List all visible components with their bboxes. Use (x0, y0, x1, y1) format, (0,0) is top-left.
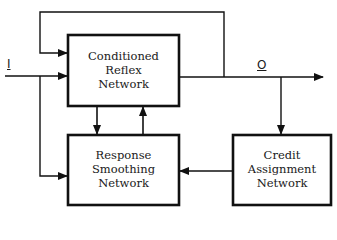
rsn-line-2: Smoothing (68, 162, 179, 176)
can-line-2: Assignment (233, 162, 331, 176)
can-line-3: Network (233, 176, 331, 190)
credit-assignment-label: Credit Assignment Network (233, 148, 331, 190)
rsn-line-1: Response (68, 148, 179, 162)
output-signal-label: O (257, 58, 266, 72)
crn-line-1: Conditioned (68, 49, 179, 63)
rsn-line-3: Network (68, 176, 179, 190)
crn-line-3: Network (68, 77, 179, 91)
input-signal-label: I (7, 57, 11, 71)
input-line-to-rsn (40, 76, 67, 176)
can-line-1: Credit (233, 148, 331, 162)
crn-line-2: Reflex (68, 63, 179, 77)
response-smoothing-label: Response Smoothing Network (68, 148, 179, 190)
conditioned-reflex-label: Conditioned Reflex Network (68, 49, 179, 91)
